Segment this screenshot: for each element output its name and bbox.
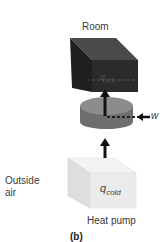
room-box xyxy=(70,38,138,92)
outside-label-line1: Outside xyxy=(5,175,39,187)
heat-pump-diagram xyxy=(0,0,165,242)
room-label: Room xyxy=(82,21,109,32)
q-cold-arrow xyxy=(100,138,110,158)
panel-label: (b) xyxy=(70,231,83,242)
outside-label-line2: air xyxy=(5,187,39,199)
q-hot-label: qhot xyxy=(100,72,115,84)
heat-pump-caption: Heat pump xyxy=(87,215,136,226)
q-hot-sub: hot xyxy=(105,77,115,84)
q-cold-sub: cold xyxy=(106,188,121,197)
q-cold-label: qcold xyxy=(100,182,121,197)
work-label: w xyxy=(151,110,158,121)
outside-air-label: Outside air xyxy=(5,175,39,199)
